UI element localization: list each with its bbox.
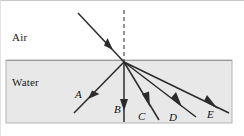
incident-ray-arrowhead bbox=[104, 38, 113, 50]
ray-label-b: B bbox=[114, 103, 121, 115]
region-label-air: Air bbox=[12, 31, 27, 43]
region-label-water: Water bbox=[12, 76, 39, 88]
ray-label-d: D bbox=[169, 111, 177, 123]
ray-label-a: A bbox=[75, 88, 82, 100]
incident-ray-group bbox=[78, 13, 124, 62]
incident-ray-line bbox=[78, 13, 124, 62]
ray-label-c: C bbox=[138, 110, 145, 122]
refraction-diagram: Air Water A B C D E bbox=[0, 0, 244, 136]
ray-label-e: E bbox=[207, 108, 214, 120]
